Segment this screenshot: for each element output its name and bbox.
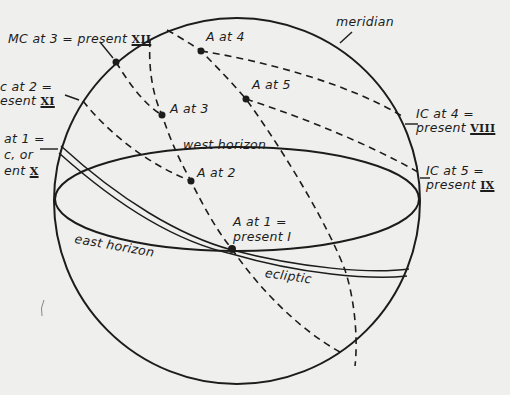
label-ic-at-5-line2: present — [426, 177, 480, 192]
point-a-at-1 — [228, 245, 236, 253]
roman-xii: XII — [132, 33, 152, 46]
label-a-at-2: A at 2 — [197, 166, 236, 180]
label-ic-at-4-line1: IC at 4 = — [416, 107, 495, 121]
stray-mark — [41, 300, 44, 316]
label-a-at-1-line1: A at 1 = — [233, 214, 291, 229]
point-mc-at-3 — [113, 59, 120, 66]
label-ic-at-2: c at 2 = esent XI — [0, 80, 55, 109]
label-a-at-1-line2: present I — [233, 229, 291, 244]
point-a-at-4 — [198, 48, 205, 55]
roman-x: X — [30, 165, 39, 178]
point-a-at-2 — [188, 178, 195, 185]
label-a-at-1: A at 1 = present I — [233, 214, 291, 244]
label-west-horizon: west horizon — [183, 138, 266, 152]
arrow-meridian — [340, 32, 352, 43]
roman-viii: VIII — [470, 122, 495, 135]
label-at-1-line2: c, or — [4, 147, 45, 163]
point-a-at-5 — [243, 96, 250, 103]
celestial-sphere-figure — [0, 0, 510, 395]
label-meridian: meridian — [336, 15, 394, 29]
label-at-1-line1: at 1 = — [4, 131, 45, 147]
dashed-arc-mc3-a3-ic5 — [116, 62, 162, 115]
label-ic-at-5-line1: IC at 5 = — [426, 164, 494, 178]
label-ic-at-4: IC at 4 = present VIII — [416, 107, 495, 136]
roman-ix: IX — [480, 179, 494, 192]
label-a-at-5: A at 5 — [252, 78, 291, 92]
label-ic-at-5: IC at 5 = present IX — [426, 164, 494, 193]
label-mc-at-3: MC at 3 = present XII — [8, 32, 151, 47]
roman-xi: XI — [41, 95, 55, 108]
meridian-circle — [54, 18, 420, 384]
label-mc-at-3-text: MC at 3 = present — [8, 31, 132, 46]
label-at-1-line3: ent — [4, 163, 30, 178]
label-ic-at-4-line2: present — [416, 120, 470, 135]
arrow-ic2 — [65, 95, 79, 100]
label-ic-at-2-line1: c at 2 = — [0, 80, 55, 94]
label-a-at-4: A at 4 — [206, 30, 245, 44]
label-at-1: at 1 = c, or ent X — [4, 131, 45, 180]
label-ic-at-2-line2: esent — [0, 93, 41, 108]
point-a-at-3 — [159, 112, 166, 119]
label-a-at-3: A at 3 — [170, 102, 209, 116]
dashed-arc-a3-a2-a1 — [150, 40, 340, 352]
